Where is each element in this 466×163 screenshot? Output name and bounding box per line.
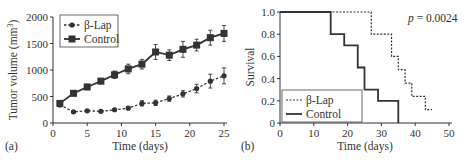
x-axis-label-a: Time (days): [112, 140, 168, 153]
legend-control-label-b: Control: [306, 108, 341, 120]
svg-text:30: 30: [376, 127, 388, 139]
y-axis-label-b: Survival: [244, 48, 256, 87]
svg-text:0.2: 0.2: [261, 95, 275, 107]
tumor-volume-chart: 05001000150020000510152025 Time (days) T…: [5, 11, 230, 153]
legend-b: β-Lap Control: [282, 90, 362, 122]
svg-text:0: 0: [50, 127, 56, 139]
p-value-annotation: p = 0.0024: [407, 12, 458, 25]
svg-text:1.0: 1.0: [261, 6, 275, 18]
svg-text:20: 20: [184, 127, 196, 139]
y-axis-label-a: Tumor volume (mm3): [6, 19, 20, 120]
svg-text:500: 500: [32, 91, 49, 103]
svg-text:2000: 2000: [26, 11, 49, 23]
panel-label-a: (a): [5, 140, 18, 153]
legend-a: β-Lap Control: [60, 15, 119, 47]
svg-text:0: 0: [43, 117, 49, 129]
legend-control-label: Control: [84, 33, 119, 45]
svg-text:0.4: 0.4: [261, 73, 275, 85]
svg-text:10: 10: [116, 127, 128, 139]
svg-text:20: 20: [342, 127, 354, 139]
legend-blap-label-b: β-Lap: [306, 94, 334, 107]
svg-text:50: 50: [444, 127, 456, 139]
svg-text:10: 10: [308, 127, 320, 139]
panel-label-b: (b): [241, 140, 255, 153]
svg-text:15: 15: [150, 127, 162, 139]
svg-text:0: 0: [270, 117, 276, 129]
svg-text:40: 40: [410, 127, 422, 139]
axes-a: 05001000150020000510152025: [26, 11, 230, 139]
survival-chart: 00.20.40.60.81.001020304050 Time (days) …: [241, 6, 458, 153]
svg-text:0.8: 0.8: [261, 28, 275, 40]
svg-text:0.6: 0.6: [261, 50, 275, 62]
svg-text:0: 0: [277, 127, 283, 139]
x-axis-label-b: Time (days): [337, 140, 393, 153]
figure: 05001000150020000510152025 Time (days) T…: [0, 0, 466, 163]
svg-text:1500: 1500: [26, 38, 49, 50]
svg-text:1000: 1000: [26, 64, 49, 76]
svg-text:5: 5: [84, 127, 90, 139]
legend-blap-label: β-Lap: [84, 19, 112, 32]
svg-text:25: 25: [219, 127, 231, 139]
